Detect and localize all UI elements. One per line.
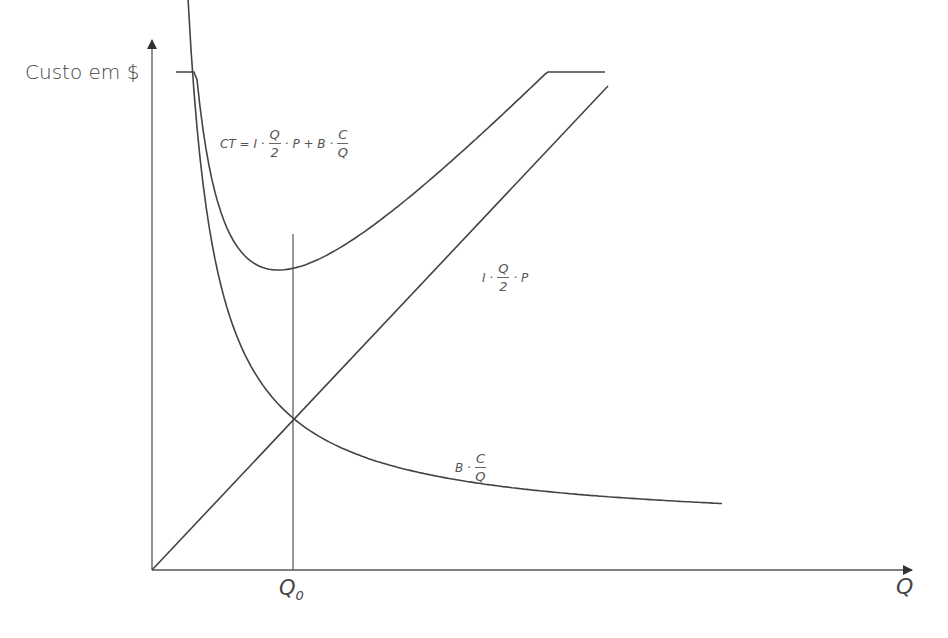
x-axis-label: Q xyxy=(896,574,913,599)
q0-label: Q0 xyxy=(279,576,304,603)
ordering-cost-curve xyxy=(176,0,722,504)
holding-cost-formula: I · Q2 · P xyxy=(482,262,528,293)
y-axis-label: Custo em $ xyxy=(25,60,139,84)
total-cost-formula: CT = I · Q2 · P + B · CQ xyxy=(220,128,348,159)
cost-diagram xyxy=(0,0,948,638)
total-cost-curve xyxy=(176,72,605,270)
ordering-cost-formula: B · CQ xyxy=(455,452,486,483)
